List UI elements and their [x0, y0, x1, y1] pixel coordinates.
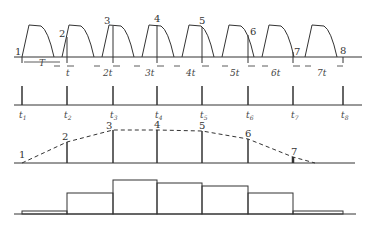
amplitude-labels: 1 2 3 4 5 6 7: [19, 119, 297, 160]
svg-text:1: 1: [19, 149, 25, 160]
svg-text:4t: 4t: [185, 68, 196, 78]
svg-text:4: 4: [154, 119, 160, 130]
amplitude-lines: [67, 130, 293, 163]
svg-text:3t: 3t: [145, 68, 155, 78]
sampling-diagram: 1 2 3 4 5 6 7 8 T t 2t 3t 4t 5t 6t 7t t1…: [0, 0, 372, 233]
svg-text:3: 3: [104, 15, 110, 26]
svg-text:1: 1: [15, 46, 21, 57]
svg-text:4: 4: [154, 13, 160, 24]
svg-text:7t: 7t: [317, 68, 327, 78]
svg-text:t8: t8: [341, 110, 349, 121]
svg-text:8: 8: [340, 45, 346, 56]
svg-text:7: 7: [291, 146, 297, 157]
svg-text:t7: t7: [291, 110, 299, 121]
svg-text:2: 2: [62, 131, 68, 142]
svg-text:5: 5: [199, 15, 205, 26]
pulse-labels: 1 2 3 4 5 6 7 8: [15, 13, 346, 57]
offset-arrows: [24, 62, 343, 66]
svg-text:2t: 2t: [102, 68, 113, 78]
svg-text:t: t: [66, 68, 70, 78]
svg-text:3: 3: [106, 120, 112, 131]
svg-text:5t: 5t: [230, 68, 240, 78]
svg-text:T: T: [39, 58, 46, 68]
svg-text:t2: t2: [64, 110, 72, 121]
svg-text:t6: t6: [246, 110, 254, 121]
svg-text:6t: 6t: [271, 68, 281, 78]
svg-text:5: 5: [199, 120, 205, 131]
svg-text:2: 2: [59, 28, 65, 39]
offset-labels: T t 2t 3t 4t 5t 6t 7t: [39, 58, 327, 78]
pulse-waves: [22, 25, 337, 57]
sample-tick-labels: t1 t2 t3 t4 t5 t6 t7 t8: [19, 110, 349, 121]
svg-text:6: 6: [245, 128, 251, 139]
svg-text:t1: t1: [19, 110, 26, 121]
staircase-bars: [22, 180, 343, 214]
svg-text:6: 6: [250, 26, 256, 37]
svg-text:7: 7: [294, 46, 300, 57]
sample-impulses: [22, 86, 343, 105]
